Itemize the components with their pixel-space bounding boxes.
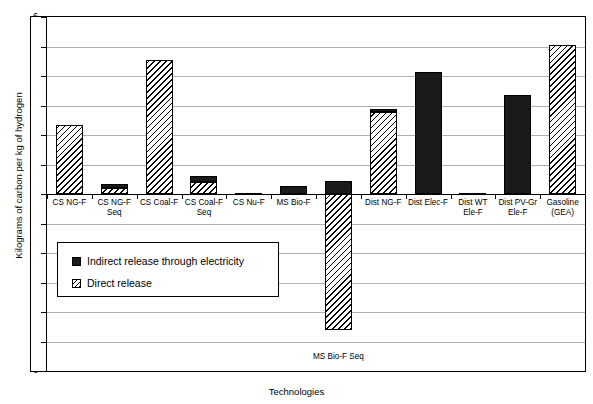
legend-item-indirect: Indirect release through electricity <box>72 250 278 272</box>
legend-label-direct: Direct release <box>87 277 152 289</box>
x-tick-label: CS Coal-F Seq <box>182 198 227 218</box>
x-tick-label: CS Coal-F <box>137 198 182 208</box>
x-tick-mark <box>271 194 272 199</box>
x-tick-mark <box>47 194 48 199</box>
legend-swatch-direct-icon <box>72 279 81 288</box>
y-tick-mark <box>41 17 47 18</box>
bar-segment-direct <box>325 194 352 330</box>
x-tick-mark <box>137 194 138 199</box>
gridline <box>47 76 585 77</box>
bar-segment-direct <box>549 45 576 194</box>
y-tick-mark <box>41 312 47 313</box>
x-tick-label: Dist NG-F <box>361 198 406 208</box>
bar-segment-indirect <box>504 95 531 194</box>
bar-segment-indirect <box>370 109 397 112</box>
y-tick-mark <box>41 165 47 166</box>
x-tick-mark <box>92 194 93 199</box>
legend-label-indirect: Indirect release through electricity <box>87 255 244 267</box>
y-tick-mark <box>41 342 47 343</box>
y-tick-mark <box>41 371 47 372</box>
gridline <box>47 224 585 225</box>
bar-segment-indirect <box>415 72 442 194</box>
y-tick-mark <box>41 224 47 225</box>
bar-segment-indirect <box>280 186 307 194</box>
x-tick-mark <box>226 194 227 199</box>
bar-segment-direct <box>190 182 217 194</box>
y-tick-mark <box>41 283 47 284</box>
carbon-emissions-bar-chart: Kilograms of carbon per kg of hydrogen 6… <box>0 0 593 404</box>
x-tick-mark <box>182 194 183 199</box>
gridline <box>47 47 585 48</box>
bar-segment-indirect <box>235 193 262 195</box>
x-tick-label: CS NG-F <box>47 198 92 208</box>
x-tick-label: CS Nu-F <box>226 198 271 208</box>
bar-segment-direct <box>370 112 397 194</box>
x-tick-mark <box>451 194 452 199</box>
gridline <box>47 342 585 343</box>
y-tick-mark <box>41 76 47 77</box>
legend-item-direct: Direct release <box>72 272 278 294</box>
y-tick-mark <box>41 253 47 254</box>
below-axis-category-label: MS Bio-F Seq <box>296 352 381 362</box>
x-axis-title: Technologies <box>0 386 593 397</box>
x-tick-mark <box>406 194 407 199</box>
x-tick-label: Dist PV-Gr Ele-F <box>495 198 540 218</box>
y-tick-mark <box>41 106 47 107</box>
x-tick-label: Gasoline (GEA) <box>540 198 585 218</box>
bar-segment-direct <box>56 125 83 194</box>
y-tick-mark <box>41 47 47 48</box>
bar-segment-indirect <box>101 184 128 188</box>
legend-swatch-indirect-icon <box>72 257 81 266</box>
x-tick-label: Dist WT Ele-F <box>451 198 496 218</box>
x-tick-mark <box>316 194 317 199</box>
bar-segment-direct <box>101 188 128 194</box>
x-tick-label: Dist Elec-F <box>406 198 451 208</box>
bar-segment-indirect <box>325 181 352 194</box>
x-tick-label: CS NG-F Seq <box>92 198 137 218</box>
gridline <box>47 312 585 313</box>
chart-legend: Indirect release through electricity Dir… <box>57 242 279 297</box>
x-tick-label: MS Bio-F <box>271 198 316 208</box>
x-tick-mark <box>585 194 586 199</box>
bar-segment-direct <box>146 60 173 194</box>
bar-segment-indirect <box>459 193 486 195</box>
x-tick-mark <box>361 194 362 199</box>
y-tick-mark <box>41 135 47 136</box>
bar-segment-indirect <box>190 176 217 181</box>
x-tick-mark <box>495 194 496 199</box>
x-tick-mark <box>540 194 541 199</box>
